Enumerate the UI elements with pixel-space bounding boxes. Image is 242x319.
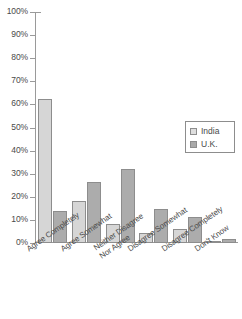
bar-chart: 0%10%20%30%40%50%60%70%80%90%100% Agree … [0,0,242,319]
legend-label-uk: U.K. [201,140,218,149]
legend-item-uk: U.K. [190,138,234,150]
y-axis: 0%10%20%30%40%50%60%70%80%90%100% [0,12,35,243]
y-axis-tick-label: 40% [11,145,28,155]
legend-item-india: India [190,125,234,137]
y-axis-tick-label: 60% [11,98,28,108]
bar-group [137,12,171,243]
bar-group [36,12,70,243]
legend-swatch-uk [190,141,197,148]
y-axis-tick-label: 90% [11,29,28,39]
legend-label-india: India [201,127,219,136]
y-axis-tick-label: 50% [11,122,28,132]
bar-group [103,12,137,243]
y-axis-tick-label: 10% [11,214,28,224]
bar-india [38,99,52,243]
y-axis-tick-label: 100% [7,6,28,16]
y-axis-tick-label: 20% [11,191,28,201]
y-axis-tick-label: 70% [11,75,28,85]
bar-group [70,12,104,243]
x-axis-labels: Agree CompletelyAgree SomewhatNeither Di… [0,243,242,319]
legend: India U.K. [185,121,235,153]
y-axis-tick-label: 30% [11,168,28,178]
y-axis-tick-label: 80% [11,52,28,62]
legend-swatch-india [190,128,197,135]
